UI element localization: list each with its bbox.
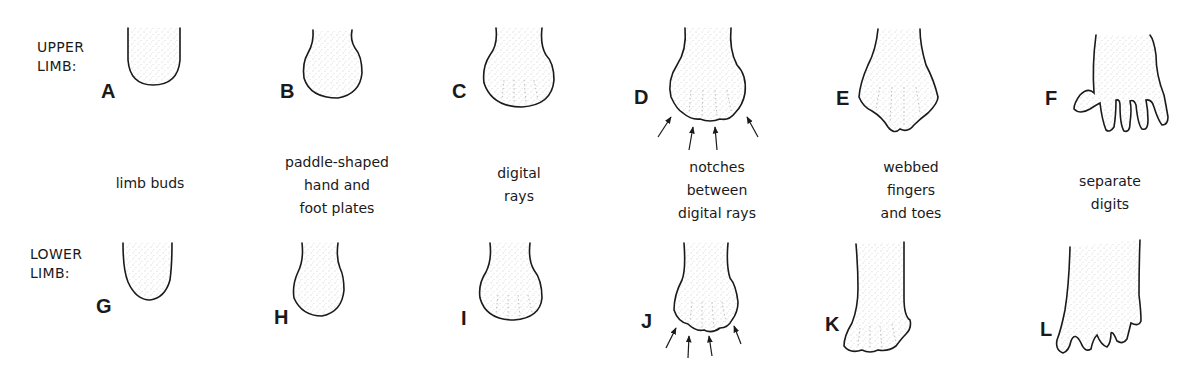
figure-letter-d: D [634, 86, 648, 109]
caption-line: digital [439, 162, 599, 185]
caption-line: paddle-shaped [257, 151, 417, 174]
foot-separate-digits-lower-l-icon [1055, 235, 1155, 360]
notched-plate-lower-j-icon [672, 240, 742, 360]
caption-line: rays [439, 185, 599, 208]
caption-line: and toes [831, 202, 991, 225]
webbed-fingers-upper-e-icon [858, 25, 940, 135]
figure-letter-b: B [280, 80, 294, 103]
caption-notches: notches between digital rays [637, 156, 797, 225]
paddle-plate-upper-b-icon [300, 28, 370, 103]
caption-digital-rays: digital rays [439, 162, 599, 208]
digital-rays-upper-c-icon [482, 25, 560, 110]
figure-letter-e: E [836, 87, 849, 110]
caption-line: limb buds [70, 172, 230, 195]
caption-line: hand and [257, 174, 417, 197]
caption-line: separate [1030, 170, 1178, 193]
caption-line: digits [1030, 193, 1178, 216]
figure-letter-i: I [461, 307, 467, 330]
caption-line: notches [637, 156, 797, 179]
caption-webbed: webbed fingers and toes [831, 156, 991, 225]
digital-rays-lower-i-icon [478, 240, 548, 322]
figure-letter-c: C [452, 80, 466, 103]
notched-plate-upper-d-icon [665, 25, 755, 155]
row-label-upper-limb: UPPER LIMB: [37, 38, 84, 76]
caption-paddle-shaped: paddle-shaped hand and foot plates [257, 151, 417, 220]
row-label-line: LOWER [30, 245, 82, 264]
figure-letter-g: G [96, 295, 112, 318]
row-label-line: UPPER [37, 38, 84, 57]
caption-line: webbed [831, 156, 991, 179]
limb-bud-lower-g-icon [120, 240, 180, 305]
paddle-plate-lower-h-icon [292, 240, 352, 320]
limb-bud-upper-a-icon [125, 25, 185, 90]
hand-separate-digits-upper-f-icon [1068, 25, 1173, 135]
caption-line: between [637, 179, 797, 202]
row-label-line: LIMB: [30, 264, 82, 283]
figure-letter-l: L [1040, 318, 1052, 341]
row-label-lower-limb: LOWER LIMB: [30, 245, 82, 283]
row-label-line: LIMB: [37, 57, 84, 76]
caption-separate-digits: separate digits [1030, 170, 1178, 216]
figure-letter-a: A [101, 80, 115, 103]
figure-letter-j: J [641, 310, 652, 333]
caption-line: digital rays [637, 202, 797, 225]
caption-limb-buds: limb buds [70, 172, 230, 195]
webbed-toes-lower-k-icon [838, 238, 918, 358]
figure-letter-h: H [274, 306, 288, 329]
caption-line: foot plates [257, 197, 417, 220]
figure-letter-f: F [1045, 87, 1057, 110]
caption-line: fingers [831, 179, 991, 202]
